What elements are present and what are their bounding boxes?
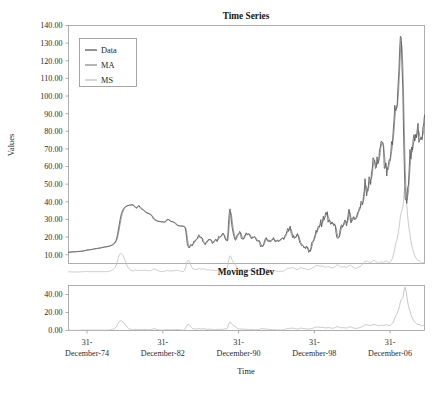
x-tick-label-line2: December-82 bbox=[141, 349, 185, 358]
x-axis-ticks: 31-December-7431-December-8231-December-… bbox=[65, 331, 412, 358]
legend-label-ms: MS bbox=[101, 76, 113, 85]
bottom-y-tick-label: 40.00 bbox=[44, 290, 62, 299]
x-tick-label-line1: 31- bbox=[82, 338, 93, 347]
x-tick-label-line2: December-90 bbox=[217, 349, 261, 358]
top-y-tick-label: 70.00 bbox=[44, 145, 62, 154]
top-y-tick-label: 60.00 bbox=[44, 162, 62, 171]
time-series-figure: Time Series 10.0020.0030.0040.0050.0060.… bbox=[0, 0, 444, 398]
x-axis-label: Time bbox=[237, 367, 255, 376]
chart-figure: Time Series 10.0020.0030.0040.0050.0060.… bbox=[0, 0, 444, 398]
top-y-tick-label: 10.00 bbox=[44, 251, 62, 260]
top-y-tick-label: 30.00 bbox=[44, 215, 62, 224]
y-axis-label: Values bbox=[7, 134, 16, 156]
top-y-tick-label: 40.00 bbox=[44, 198, 62, 207]
legend-label-ma: MA bbox=[101, 61, 114, 70]
x-tick-label-line2: December-74 bbox=[65, 349, 109, 358]
top-y-tick-label: 20.00 bbox=[44, 233, 62, 242]
chart-legend[interactable]: DataMAMS bbox=[80, 39, 137, 87]
x-tick-label-line1: 31- bbox=[385, 338, 396, 347]
x-tick-label-line2: December-98 bbox=[292, 349, 336, 358]
top-y-tick-label: 110.00 bbox=[41, 74, 63, 83]
top-y-tick-label: 50.00 bbox=[44, 180, 62, 189]
top-y-tick-label: 100.00 bbox=[40, 92, 62, 101]
top-y-tick-label: 90.00 bbox=[44, 110, 62, 119]
x-tick-label-line1: 31- bbox=[233, 338, 244, 347]
x-tick-label-line2: December-06 bbox=[368, 349, 412, 358]
bottom-y-tick-label: 0.00 bbox=[48, 326, 62, 335]
bottom-y-tick-label: 20.00 bbox=[44, 308, 62, 317]
top-panel-title: Time Series bbox=[223, 11, 270, 21]
top-y-axis-ticks: 10.0020.0030.0040.0050.0060.0070.0080.00… bbox=[40, 21, 68, 259]
bottom-plot-frame bbox=[69, 286, 425, 331]
top-y-tick-label: 140.00 bbox=[40, 21, 62, 30]
top-series-ms bbox=[69, 187, 425, 272]
x-tick-label-line1: 31- bbox=[157, 338, 168, 347]
bottom-panel-title: Moving StDev bbox=[218, 267, 275, 277]
bottom-series-group bbox=[69, 287, 425, 330]
top-y-tick-label: 130.00 bbox=[40, 39, 62, 48]
top-y-tick-label: 80.00 bbox=[44, 127, 62, 136]
top-y-tick-label: 120.00 bbox=[40, 57, 62, 66]
bottom-y-axis-ticks: 0.0020.0040.00 bbox=[44, 290, 68, 335]
x-tick-label-line1: 31- bbox=[309, 338, 320, 347]
bottom-series-ms bbox=[69, 287, 425, 330]
legend-label-data: Data bbox=[101, 46, 117, 55]
